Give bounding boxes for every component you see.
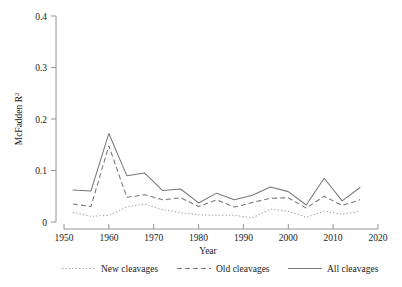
x-tick-label-7: 2020 bbox=[369, 233, 388, 243]
x-tick-label-0: 1950 bbox=[55, 233, 74, 243]
legend-label-new-cleavages: New cleavages bbox=[101, 264, 159, 274]
x-tick-label-2: 1970 bbox=[144, 233, 163, 243]
legend-label-old-cleavages: Old cleavages bbox=[216, 264, 270, 274]
x-tick-label-1: 1960 bbox=[99, 233, 118, 243]
x-tick-label-5: 2000 bbox=[279, 233, 298, 243]
x-tick-label-4: 1990 bbox=[234, 233, 253, 243]
y-tick-label-0: 0 bbox=[42, 218, 47, 228]
x-tick-label-3: 1980 bbox=[189, 233, 208, 243]
y-tick-label-1: 0.1 bbox=[35, 166, 47, 176]
y-tick-label-4: 0.4 bbox=[35, 12, 47, 22]
y-tick-label-2: 0.2 bbox=[35, 115, 47, 125]
series-line-old-cleavages bbox=[73, 146, 360, 208]
y-axis-ticks bbox=[51, 16, 56, 222]
x-axis-ticks bbox=[64, 224, 378, 229]
y-axis-title-superscript: 2 bbox=[13, 93, 20, 96]
x-axis-title: Year bbox=[199, 246, 217, 256]
chart-legend: New cleavages Old cleavages All cleavage… bbox=[62, 264, 379, 274]
x-tick-label-6: 2010 bbox=[324, 233, 343, 243]
chart-figure: 0 0.1 0.2 0.3 0.4 1950 1960 1970 1980 19… bbox=[0, 0, 402, 287]
series-line-new-cleavages bbox=[73, 204, 360, 218]
series-line-all-cleavages bbox=[73, 133, 360, 205]
y-tick-label-3: 0.3 bbox=[35, 63, 47, 73]
chart-plot-area: 0 0.1 0.2 0.3 0.4 1950 1960 1970 1980 19… bbox=[0, 0, 402, 287]
legend-label-all-cleavages: All cleavages bbox=[327, 264, 379, 274]
y-axis-title-main: McFadden R bbox=[14, 95, 24, 145]
y-axis-title: McFadden R2 bbox=[13, 93, 25, 146]
